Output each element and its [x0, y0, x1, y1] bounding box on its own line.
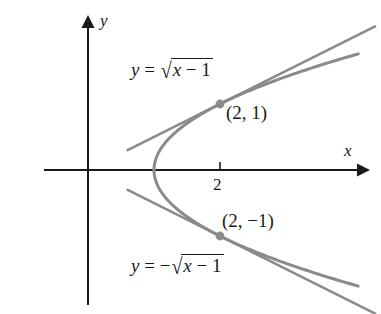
radical-surd-icon: √: [161, 59, 172, 81]
equation-lower-minus: −: [197, 255, 208, 276]
equation-upper-minus: −: [186, 59, 197, 80]
tangency-point-lower: [216, 232, 225, 241]
y-axis: [82, 15, 95, 305]
equation-lower-radicand: x − 1: [181, 254, 223, 275]
equation-lower-radical: √x − 1: [170, 254, 223, 275]
equation-upper-y: y: [131, 59, 139, 80]
equation-upper: y = √x − 1: [131, 58, 213, 79]
tangency-point-upper: [216, 100, 225, 109]
equation-lower-sign: −: [160, 255, 171, 276]
x-axis: [44, 164, 370, 177]
graph-figure: y x 2 y = √x − 1 y = −√x − 1 (2, 1) (2, …: [0, 0, 381, 314]
equation-lower-y: y: [131, 255, 139, 276]
equation-lower: y = −√x − 1: [131, 254, 224, 275]
equation-upper-radicand: x − 1: [171, 58, 213, 79]
equation-lower-equals: =: [144, 255, 155, 276]
y-axis-label: y: [100, 12, 108, 29]
equation-upper-one: 1: [201, 59, 211, 80]
point-label-lower: (2, −1): [222, 211, 274, 230]
equation-lower-one: 1: [212, 255, 222, 276]
x-axis-label: x: [344, 142, 352, 159]
x-tick-label-2: 2: [213, 176, 222, 193]
equation-upper-equals: =: [144, 59, 155, 80]
equation-upper-x: x: [173, 59, 181, 80]
radical-surd-icon-lower: √: [171, 255, 182, 277]
equation-lower-x: x: [183, 255, 191, 276]
equation-upper-radical: √x − 1: [160, 58, 213, 79]
point-label-upper: (2, 1): [226, 103, 267, 122]
